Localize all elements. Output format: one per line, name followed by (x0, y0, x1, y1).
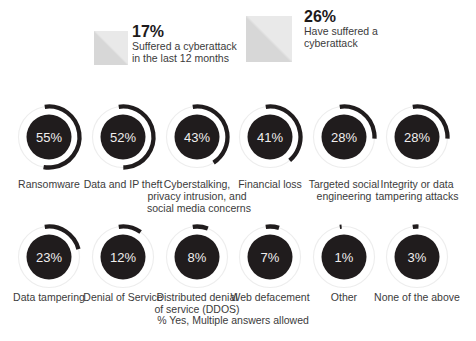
gauge-none-of-the-above: 3% (375, 215, 459, 299)
gauge-web-defacement: 7% (228, 215, 312, 299)
gauge-ring: 28% (375, 95, 459, 179)
gauge-label-line: Integrity or data (367, 178, 467, 190)
gauge-label-line: None of the above (367, 291, 467, 303)
legend-item-last-12-months: 17% Suffered a cyberattack in the last 1… (132, 23, 237, 64)
gauge-ring: 8% (155, 215, 239, 299)
legend-desc-line: cyberattack (304, 38, 378, 50)
gauge-financial-loss: 41% (228, 95, 312, 179)
legend-value: 17% (132, 23, 237, 41)
legend-swatch-last-12-months (94, 31, 128, 65)
gauge-cyberstalking-privacy-intrusion-and-social-media-concerns: 43% (155, 95, 239, 179)
gauge-ring: 43% (155, 95, 239, 179)
gauge-value: 43% (184, 130, 210, 145)
gauge-other: 1% (302, 215, 386, 299)
gauge-value: 41% (257, 130, 283, 145)
gauge-ransomware: 55% (7, 95, 91, 179)
gauge-ring: 55% (7, 95, 91, 179)
gauge-ring: 52% (81, 95, 165, 179)
legend-value: 26% (304, 8, 378, 26)
gauge-value: 28% (404, 130, 430, 145)
footnote: % Yes, Multiple answers allowed (157, 314, 309, 326)
gauge-value: 52% (110, 130, 136, 145)
gauge-value: 8% (188, 250, 207, 265)
legend-item-ever-suffered: 26% Have suffered a cyberattack (304, 8, 378, 49)
gauge-data-and-ip-theft: 52% (81, 95, 165, 179)
gauge-data-tampering: 23% (7, 215, 91, 299)
gauge-ring: 23% (7, 215, 91, 299)
gauge-label-none-of-the-above: None of the above (367, 291, 467, 303)
gauge-label-integrity-or-data-tampering-attacks: Integrity or datatampering attacks (367, 178, 467, 202)
gauge-targeted-social-engineering: 28% (302, 95, 386, 179)
gauge-ring: 41% (228, 95, 312, 179)
gauge-ring: 3% (375, 215, 459, 299)
gauge-label-line: tampering attacks (367, 190, 467, 202)
gauge-value: 7% (261, 250, 280, 265)
gauge-distributed-denial-of-service-ddos: 8% (155, 215, 239, 299)
gauge-denial-of-service: 12% (81, 215, 165, 299)
gauge-ring: 28% (302, 95, 386, 179)
gauge-label-line: social media concerns (147, 202, 247, 214)
legend-swatch-ever-suffered (246, 16, 292, 62)
infographic-canvas: 17% Suffered a cyberattack in the last 1… (0, 0, 476, 341)
legend-desc-line: in the last 12 months (132, 53, 237, 65)
gauge-ring: 7% (228, 215, 312, 299)
gauge-integrity-or-data-tampering-attacks: 28% (375, 95, 459, 179)
gauge-value: 55% (36, 130, 62, 145)
gauge-value: 3% (408, 250, 427, 265)
gauge-value: 12% (110, 250, 136, 265)
gauge-value: 23% (36, 250, 62, 265)
legend-desc-line: Suffered a cyberattack (132, 41, 237, 53)
gauge-value: 28% (331, 130, 357, 145)
gauge-label-line: privacy intrusion, and (147, 190, 247, 202)
gauge-ring: 12% (81, 215, 165, 299)
legend-desc-line: Have suffered a (304, 26, 378, 38)
gauge-ring: 1% (302, 215, 386, 299)
gauge-value: 1% (335, 250, 354, 265)
